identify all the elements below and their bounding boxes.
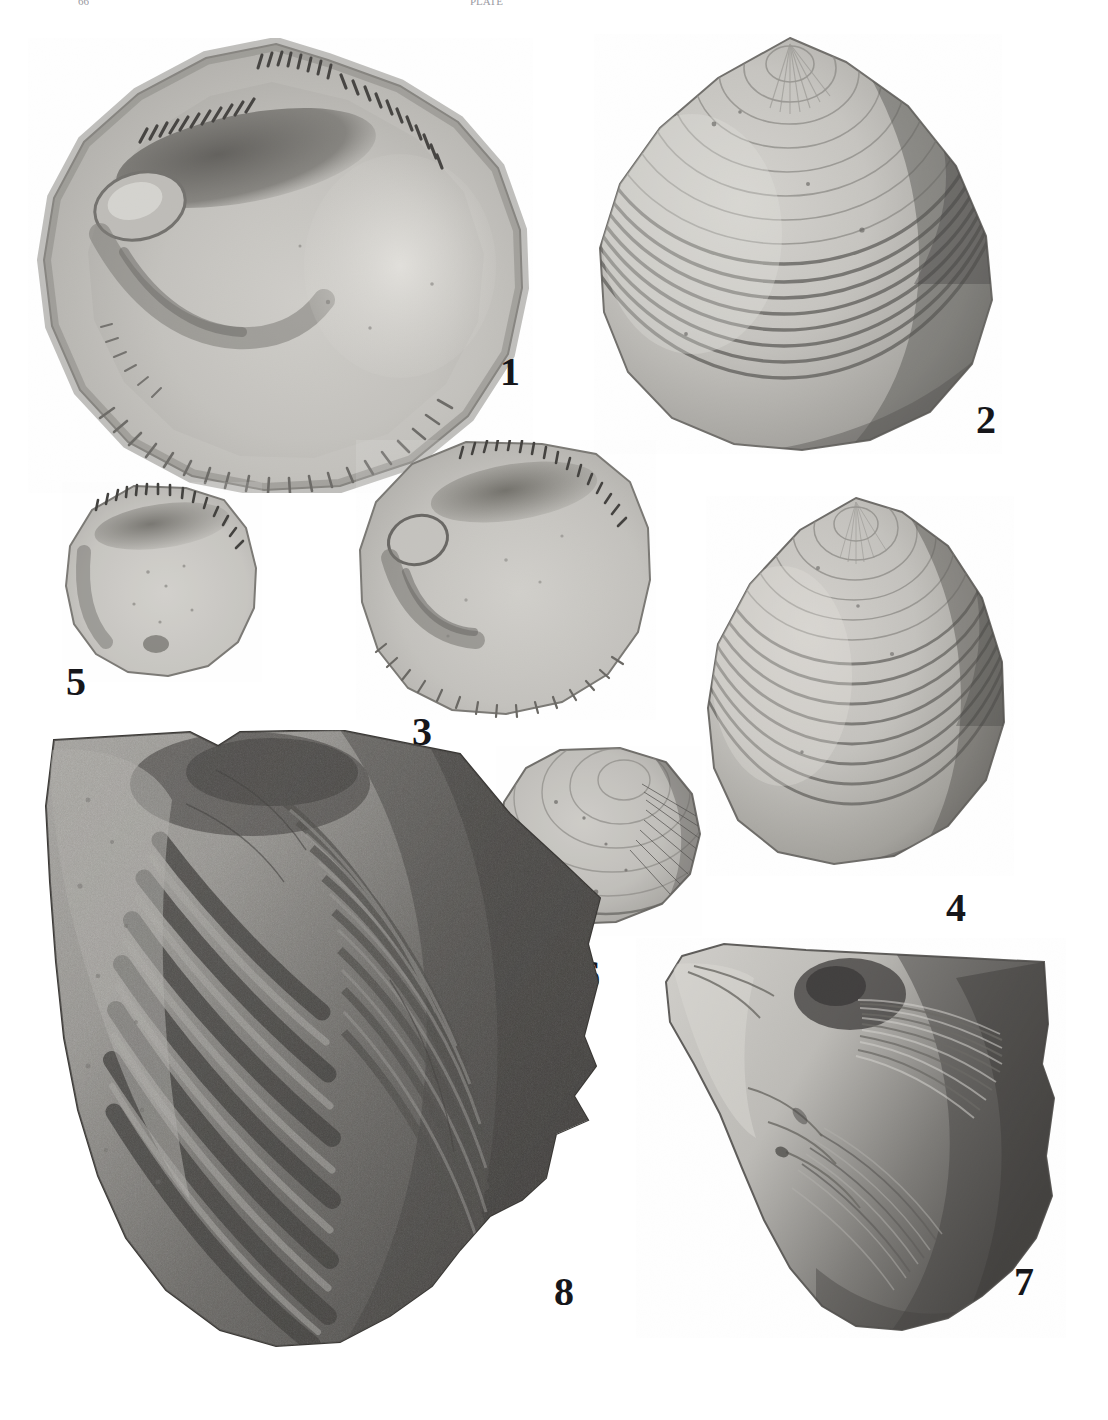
- figure-label-1: 1: [500, 352, 520, 392]
- figure-label-2: 2: [976, 400, 996, 440]
- plate-header-crop: PLATE: [470, 0, 503, 5]
- figure-1-bivalve-interior-large-left: [28, 38, 533, 493]
- figure-label-8: 8: [554, 1272, 574, 1312]
- figure-4-bivalve-exterior-medium: [706, 496, 1014, 876]
- figure-label-5: 5: [66, 662, 86, 702]
- figure-8-shell-in-matrix-concentric-ribbed: [40, 730, 620, 1350]
- figure-2-bivalve-exterior-large-right: [594, 34, 1002, 454]
- figure-label-7: 7: [1014, 1262, 1034, 1302]
- figure-5-bivalve-interior-small: [62, 482, 262, 682]
- figure-7-shell-fragment-internal-mold: [636, 938, 1066, 1338]
- figure-label-4: 4: [946, 888, 966, 928]
- figure-3-bivalve-interior-medium: [356, 440, 656, 720]
- page-number-crop: 66: [78, 0, 89, 5]
- figure-plate: 66 PLATE: [0, 0, 1108, 1420]
